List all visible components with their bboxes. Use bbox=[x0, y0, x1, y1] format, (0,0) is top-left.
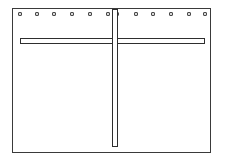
diagram-canvas bbox=[0, 0, 226, 164]
vertical-rail bbox=[112, 9, 118, 147]
